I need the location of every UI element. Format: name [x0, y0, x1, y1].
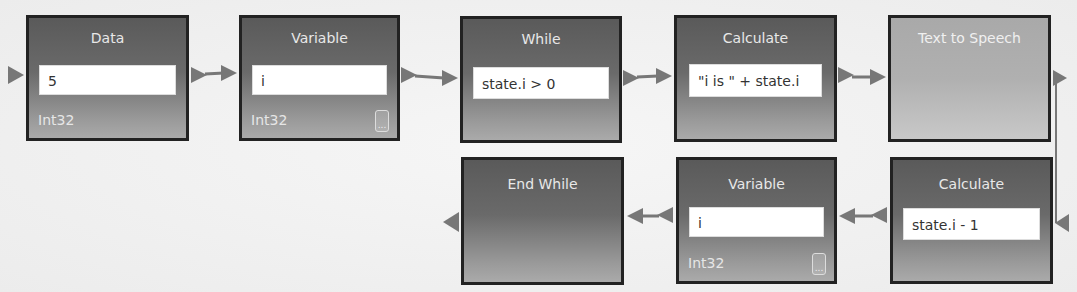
- while-block[interactable]: While state.i > 0: [460, 16, 622, 143]
- end-while-block[interactable]: End While: [461, 157, 624, 285]
- type-label: Int32: [688, 255, 724, 271]
- more-options-button[interactable]: ...: [812, 253, 826, 275]
- calculate-block[interactable]: Calculate "i is " + state.i: [674, 15, 837, 142]
- data-value-input[interactable]: 5: [39, 65, 176, 95]
- block-title: Text to Speech: [891, 30, 1048, 46]
- calculate-block-2[interactable]: Calculate state.i - 1: [890, 157, 1053, 284]
- condition-input[interactable]: state.i > 0: [473, 67, 609, 99]
- block-title: Calculate: [677, 30, 834, 46]
- variable-name-input[interactable]: i: [689, 207, 824, 237]
- block-title: Data: [29, 30, 186, 46]
- variable-block-2[interactable]: Variable i Int32 ...: [676, 157, 837, 284]
- diagram-canvas: Data 5 Int32 Variable i Int32 ... While …: [0, 0, 1077, 292]
- block-title: Variable: [679, 176, 834, 192]
- type-label: Int32: [251, 112, 287, 128]
- expression-input[interactable]: "i is " + state.i: [689, 64, 822, 97]
- input-port-icon: [8, 66, 24, 84]
- output-port-icon: [443, 212, 459, 232]
- more-options-button[interactable]: ...: [375, 110, 389, 132]
- expression-input[interactable]: state.i - 1: [903, 208, 1040, 240]
- block-title: End While: [464, 176, 621, 192]
- block-title: Variable: [242, 30, 397, 46]
- text-to-speech-block[interactable]: Text to Speech: [888, 15, 1051, 142]
- type-label: Int32: [38, 112, 74, 128]
- variable-block[interactable]: Variable i Int32 ...: [239, 15, 400, 141]
- block-title: While: [463, 31, 619, 47]
- data-block[interactable]: Data 5 Int32: [26, 15, 189, 141]
- variable-name-input[interactable]: i: [252, 65, 387, 95]
- block-title: Calculate: [893, 176, 1050, 192]
